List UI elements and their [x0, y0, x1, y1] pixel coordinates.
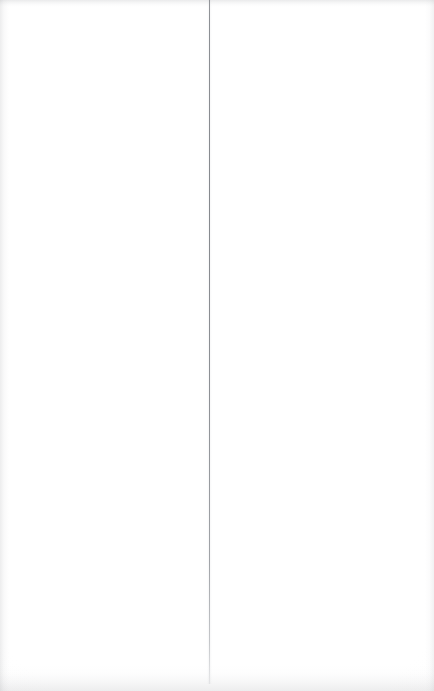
scan-artifact-right-edge	[425, 0, 434, 691]
scan-artifact-bottom-edge	[0, 665, 434, 691]
scan-artifact-top-edge	[0, 0, 434, 7]
scan-artifact-left-edge	[0, 0, 9, 691]
paper-background	[0, 0, 434, 691]
vertical-gutter-rule	[209, 0, 210, 684]
scanned-page	[0, 0, 434, 691]
